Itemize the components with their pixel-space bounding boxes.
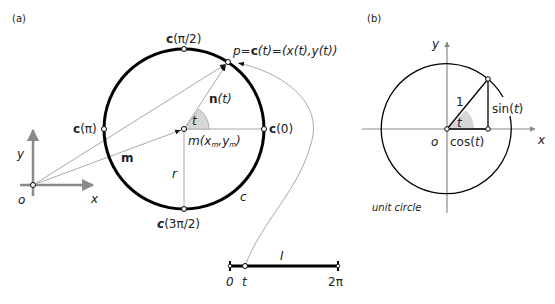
label-circle-c: c xyxy=(240,190,247,204)
label-c-pi-2: c(π/2) xyxy=(166,32,201,46)
label-c-0: c(0) xyxy=(269,122,293,136)
point-origin xyxy=(31,183,36,188)
interval-point-t xyxy=(243,264,248,269)
hyp-label: 1 xyxy=(456,95,464,109)
label-radius-r: r xyxy=(172,167,178,181)
sin-label: sin(t) xyxy=(492,102,523,116)
label-c-3pi-2: c(3π/2) xyxy=(157,217,200,231)
point-m-center xyxy=(182,127,187,132)
panel-a-label: (a) xyxy=(12,13,26,24)
x-axis-label-b: x xyxy=(537,133,546,147)
panel-b: (b) y x o t 1 sin(t) cos(t) unit circle xyxy=(362,13,546,213)
origin-label: o xyxy=(18,193,25,207)
label-center-m: m(xm,ym) xyxy=(188,134,241,149)
label-vector-m: m xyxy=(121,151,134,165)
interval-end-label: 2π xyxy=(328,275,343,289)
label-vector-n: n(t) xyxy=(209,92,232,106)
point-c-0 xyxy=(262,127,267,132)
label-p: p=c(t)=(x(t),y(t)) xyxy=(232,44,337,58)
point-c-3pi-2 xyxy=(182,207,187,212)
origin-point-b xyxy=(445,127,450,132)
label-c-pi: c(π) xyxy=(73,122,97,136)
cos-label: cos(t) xyxy=(450,135,484,149)
point-c-pi xyxy=(102,127,107,132)
interval-start-label: 0 xyxy=(226,275,234,289)
unit-circle-caption: unit circle xyxy=(372,202,421,213)
foot-point-b xyxy=(486,127,491,132)
point-p xyxy=(226,60,231,65)
x-axis-label: x xyxy=(90,192,99,206)
panel-a: (a) y x o t xyxy=(12,13,343,289)
origin-label-b: o xyxy=(431,135,438,149)
y-axis-label-b: y xyxy=(431,37,440,51)
interval-t-label: t xyxy=(242,275,248,289)
interval-I: I 0 t 2π xyxy=(226,249,343,289)
coordinate-axes-a: y x o xyxy=(16,130,99,207)
diagram-canvas: (a) y x o t xyxy=(0,0,555,304)
point-c-pi-2 xyxy=(182,47,187,52)
panel-b-label: (b) xyxy=(367,13,381,24)
circle-point-b xyxy=(486,77,491,82)
y-axis-label: y xyxy=(16,147,25,161)
mapping-curve xyxy=(238,63,313,266)
interval-label: I xyxy=(280,249,284,263)
